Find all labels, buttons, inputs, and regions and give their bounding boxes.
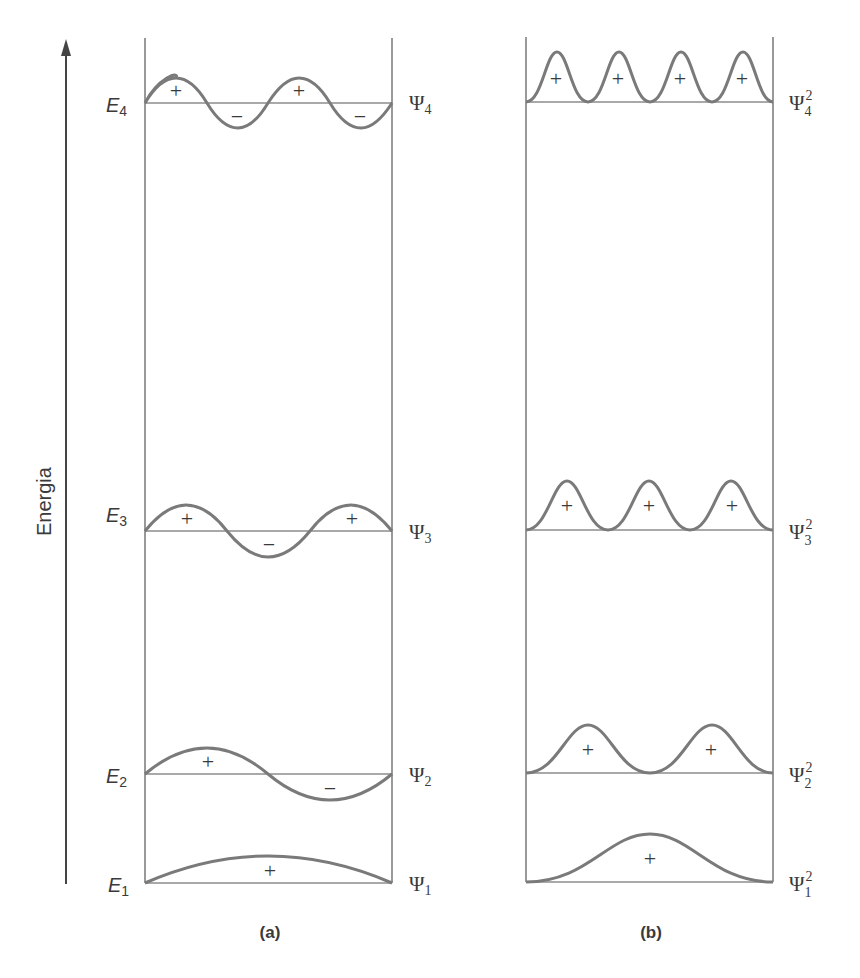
svg-text:+: +	[346, 506, 358, 531]
psi2-squared-curve	[526, 725, 773, 773]
svg-text:+: +	[726, 493, 738, 518]
psi-squared-label-3: Ψ23	[789, 517, 813, 548]
signs-b: + + + + + + + + + +	[550, 66, 748, 871]
panel-a-caption: (a)	[260, 923, 281, 942]
svg-text:+: +	[550, 66, 562, 91]
psi-squared-label-1: Ψ21	[789, 869, 813, 900]
energy-label-2: E2	[106, 765, 127, 790]
energy-axis: Energia	[33, 39, 71, 884]
energy-label-3: E3	[106, 504, 127, 529]
svg-text:+: +	[181, 506, 193, 531]
panel-b: + + + + + + + + + + Ψ24 Ψ23 Ψ22 Ψ21 (b)	[526, 37, 813, 942]
svg-text:+: +	[674, 66, 686, 91]
psi-label-1: Ψ1	[409, 872, 432, 898]
particle-in-box-diagram: Energia + − + − + − + + − +	[0, 0, 860, 978]
arrow-up-icon	[61, 39, 71, 56]
svg-text:+: +	[582, 737, 594, 762]
svg-text:+: +	[612, 66, 624, 91]
svg-text:+: +	[705, 737, 717, 762]
svg-text:+: +	[170, 78, 182, 103]
signs-a: + − + − + − + + − +	[170, 78, 366, 883]
svg-text:−: −	[263, 532, 275, 557]
psi-squared-label-4: Ψ24	[789, 88, 813, 119]
svg-text:+: +	[561, 493, 573, 518]
svg-text:+: +	[736, 66, 748, 91]
svg-text:−: −	[324, 776, 336, 801]
energy-labels: E4 E3 E2 E1	[106, 94, 129, 899]
energy-axis-label: Energia	[33, 466, 55, 536]
psi-label-2: Ψ2	[409, 763, 432, 789]
svg-text:+: +	[293, 78, 305, 103]
psi-squared-labels: Ψ24 Ψ23 Ψ22 Ψ21	[789, 88, 813, 900]
svg-text:+: +	[264, 858, 276, 883]
svg-text:+: +	[643, 493, 655, 518]
psi-label-4: Ψ4	[409, 91, 432, 117]
svg-text:+: +	[202, 749, 214, 774]
svg-text:−: −	[231, 104, 243, 129]
energy-label-1: E1	[108, 874, 129, 899]
panel-b-caption: (b)	[640, 923, 662, 942]
panel-a: + − + − + − + + − + E4 E3 E2 E1 Ψ4 Ψ3 Ψ2…	[106, 38, 432, 942]
psi-squared-label-2: Ψ22	[789, 760, 813, 791]
svg-text:+: +	[644, 846, 656, 871]
psi-labels: Ψ4 Ψ3 Ψ2 Ψ1	[409, 91, 432, 898]
energy-label-4: E4	[106, 94, 127, 119]
psi-label-3: Ψ3	[409, 520, 432, 546]
svg-text:−: −	[354, 104, 366, 129]
